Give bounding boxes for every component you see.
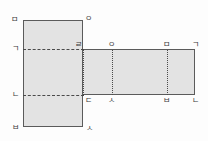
vertex-label-top-right: ㅇ	[85, 14, 92, 23]
vertex-label-mid-left: ㄱ	[12, 44, 19, 53]
vertex-label-bottom-left: ㅂ	[12, 123, 19, 132]
net-face-left-panel	[23, 20, 83, 127]
fold-line-vertical-first	[112, 50, 113, 95]
vertex-label-mid-second-divider: ㅁ	[163, 40, 170, 49]
vertex-label-lower-left: ㄴ	[12, 90, 19, 99]
vertex-label-mid-first-divider: ㅇ	[108, 40, 115, 49]
fold-line-shared-vertical	[83, 50, 84, 95]
fold-line-top-horizontal	[23, 49, 84, 50]
vertex-label-lower-right: ㄴ	[192, 96, 199, 105]
vertex-label-mid-shared: ㄹ	[75, 40, 82, 49]
vertex-label-lower-second-divider: ㅂ	[163, 96, 170, 105]
vertex-label-lower-shared: ㄷ	[85, 96, 92, 105]
cube-net-figure: ㅁ ㅇ ㄱ ㄹ ㅇ ㅁ ㄱ ㄴ ㄷ ㅅ ㅂ ㄴ ㅂ ㅅ	[0, 0, 208, 141]
fold-line-vertical-second	[167, 50, 168, 95]
fold-line-bottom-horizontal	[23, 95, 84, 96]
vertex-label-top-left: ㅁ	[11, 15, 18, 24]
vertex-label-mid-right: ㄱ	[192, 40, 199, 49]
vertex-label-lower-first-divider: ㅅ	[108, 96, 115, 105]
net-face-right-strip	[83, 49, 195, 95]
vertex-label-bottom-right: ㅅ	[86, 124, 93, 133]
